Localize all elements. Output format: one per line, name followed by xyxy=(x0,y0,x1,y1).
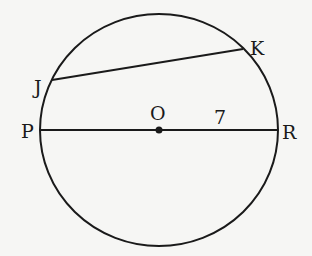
label-k: K xyxy=(250,37,265,59)
center-point-o xyxy=(156,127,163,134)
diagram-canvas: J K P R O 7 xyxy=(0,0,312,256)
label-radius-value: 7 xyxy=(214,106,226,128)
label-o: O xyxy=(150,102,166,124)
circle-diagram: J K P R O 7 xyxy=(0,0,312,256)
chord-jk xyxy=(52,49,243,80)
label-p: P xyxy=(21,120,34,142)
label-j: J xyxy=(32,76,42,98)
label-r: R xyxy=(282,121,297,143)
